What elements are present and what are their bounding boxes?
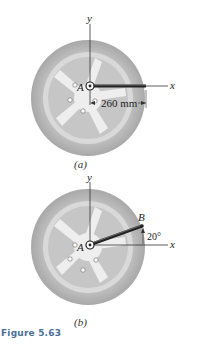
point-b-marker: [140, 224, 144, 228]
dimension-label: 260 mm: [101, 97, 138, 109]
x-axis-label-b: x: [169, 238, 175, 250]
point-a-label: A: [76, 81, 84, 93]
panel-b: 20° y x A B: [31, 171, 175, 305]
x-axis-label-a: x: [169, 79, 175, 91]
point-b-label: B: [138, 211, 145, 223]
figure-canvas: 260 mm y x A: [0, 0, 198, 347]
lug-hole: [68, 257, 72, 261]
lug-hole: [68, 98, 72, 102]
angle-label: 20°: [147, 231, 161, 242]
panel-a: 260 mm y x A: [31, 12, 175, 156]
lug-hole: [81, 109, 85, 113]
lug-hole: [81, 268, 85, 272]
lug-hole: [94, 258, 98, 262]
y-axis-label-a: y: [86, 12, 92, 24]
figure-title: Figure 5.63: [1, 328, 61, 338]
point-a-label: A: [76, 241, 84, 253]
y-axis-label-b: y: [86, 171, 92, 183]
caption-b: (b): [74, 316, 87, 328]
caption-a: (a): [74, 158, 87, 170]
